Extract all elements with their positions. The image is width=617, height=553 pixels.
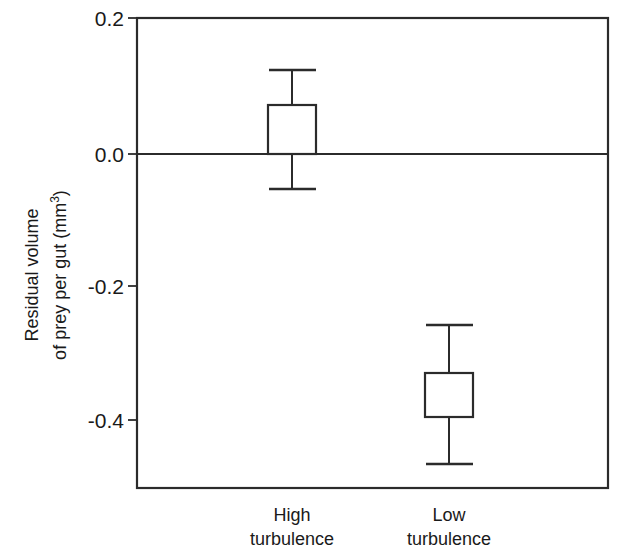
y-tick-label-1: 0.0: [95, 143, 124, 166]
y-axis-title-line2: of prey per gut (mm3): [48, 190, 70, 360]
y-tick-label-3: -0.4: [88, 409, 125, 432]
y-axis-title-line2-post: ): [50, 190, 70, 196]
y-tick-label-2: -0.2: [88, 275, 124, 298]
plot-area-background: [137, 18, 608, 488]
y-axis-ticks: [128, 18, 137, 420]
chart-figure: 0.2 0.0 -0.2 -0.4: [0, 0, 617, 553]
y-axis-title-line1: Residual volume: [22, 208, 42, 341]
x-label-high-line2: turbulence: [250, 529, 334, 549]
x-label-low-line2: turbulence: [407, 529, 491, 549]
x-label-high-line1: High: [273, 505, 310, 525]
y-axis-title: Residual volume of prey per gut (mm3): [22, 190, 70, 360]
box-plot-svg: 0.2 0.0 -0.2 -0.4: [0, 0, 617, 553]
x-label-low-line1: Low: [432, 505, 466, 525]
y-axis-title-line2-pre: of prey per gut (mm: [50, 203, 70, 360]
box-high-turbulence[interactable]: [268, 105, 316, 154]
y-tick-label-0: 0.2: [95, 7, 124, 30]
box-low-turbulence[interactable]: [425, 373, 473, 417]
x-axis-category-labels: High turbulence Low turbulence: [250, 505, 491, 549]
